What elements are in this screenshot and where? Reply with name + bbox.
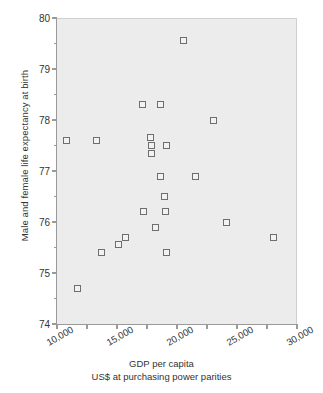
x-axis-tick bbox=[296, 324, 297, 329]
x-axis-tick bbox=[176, 324, 177, 329]
data-point bbox=[93, 137, 100, 144]
scatter-chart-figure: Male and female life expectancy at birth… bbox=[0, 0, 323, 393]
x-axis-tick bbox=[86, 324, 87, 329]
data-point bbox=[192, 173, 199, 180]
data-point bbox=[139, 101, 146, 108]
y-axis-tick-label: 76 bbox=[39, 217, 50, 228]
y-axis-tick-label: 75 bbox=[39, 268, 50, 279]
y-axis-tick-minor bbox=[54, 298, 58, 299]
y-axis-tick-major bbox=[52, 68, 57, 69]
y-axis-tick-label: 74 bbox=[39, 319, 50, 330]
data-point bbox=[148, 142, 155, 149]
y-axis-tick-minor bbox=[54, 43, 58, 44]
y-axis-tick-major bbox=[52, 119, 57, 120]
data-point bbox=[162, 208, 169, 215]
y-axis-tick-label: 78 bbox=[39, 115, 50, 126]
data-point bbox=[270, 234, 277, 241]
x-axis-tick bbox=[116, 324, 117, 329]
y-axis-tick-label: 77 bbox=[39, 166, 50, 177]
data-point bbox=[157, 173, 164, 180]
data-point bbox=[98, 249, 105, 256]
data-point bbox=[115, 241, 122, 248]
y-axis-tick-minor bbox=[54, 196, 58, 197]
data-point bbox=[163, 142, 170, 149]
y-axis-tick-minor bbox=[54, 94, 58, 95]
x-axis-tick-label: 15,000 bbox=[104, 324, 135, 348]
plot-area: 7475767778798010,00015,00020,00025,00030… bbox=[56, 18, 297, 325]
data-point bbox=[74, 285, 81, 292]
data-point bbox=[140, 208, 147, 215]
data-point bbox=[63, 137, 70, 144]
x-axis-tick bbox=[206, 324, 207, 329]
data-point bbox=[223, 219, 230, 226]
data-point bbox=[122, 234, 129, 241]
x-axis-tick bbox=[56, 324, 57, 329]
x-axis-tick bbox=[236, 324, 237, 329]
y-axis-tick-major bbox=[52, 272, 57, 273]
y-axis-tick-label: 80 bbox=[39, 13, 50, 24]
y-axis-title: Male and female life expectancy at birth bbox=[19, 26, 30, 286]
x-axis-tick bbox=[146, 324, 147, 329]
y-axis-tick-major bbox=[52, 170, 57, 171]
plot-top-edge bbox=[57, 18, 297, 19]
x-axis-tick bbox=[266, 324, 267, 329]
x-axis-tick-label: 30,000 bbox=[284, 324, 315, 348]
data-point bbox=[163, 249, 170, 256]
y-axis-tick-label: 79 bbox=[39, 64, 50, 75]
data-point bbox=[157, 101, 164, 108]
x-axis-tick-label: 20,000 bbox=[164, 324, 195, 348]
x-axis-titles: GDP per capita US$ at purchasing power p… bbox=[0, 358, 323, 383]
y-axis-tick-major bbox=[52, 221, 57, 222]
x-axis-title-main: GDP per capita bbox=[0, 358, 323, 371]
y-axis-tick-minor bbox=[54, 145, 58, 146]
data-point bbox=[210, 117, 217, 124]
data-point bbox=[147, 134, 154, 141]
data-point bbox=[180, 37, 187, 44]
x-axis-title-sub: US$ at purchasing power parities bbox=[0, 371, 323, 384]
y-axis-tick-minor bbox=[54, 247, 58, 248]
data-point bbox=[148, 150, 155, 157]
data-point bbox=[152, 224, 159, 231]
x-axis-tick-label: 25,000 bbox=[224, 324, 255, 348]
data-point bbox=[161, 193, 168, 200]
y-axis-tick-major bbox=[52, 17, 57, 18]
plot-right-edge bbox=[296, 18, 297, 324]
